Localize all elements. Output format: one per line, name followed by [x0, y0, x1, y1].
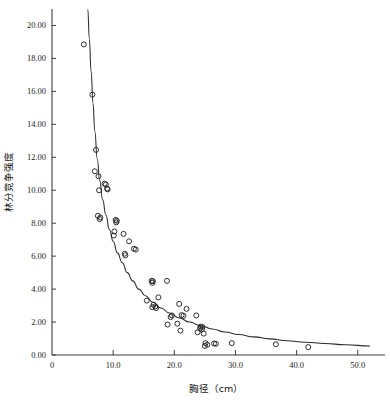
x-tick-label: 0 — [50, 360, 54, 370]
data-point — [164, 278, 169, 283]
data-point — [175, 321, 180, 326]
y-tick-label: 6.00 — [31, 251, 46, 261]
scatter-plot: 0.002.004.006.008.0010.0012.0014.0016.00… — [0, 0, 390, 411]
x-tick-label: 40.0 — [289, 360, 304, 370]
y-axis-title: 林分竞争强度 — [3, 152, 14, 212]
x-axis-ticks: 010.020.030.040.050.0 — [50, 350, 365, 370]
y-tick-label: 10.00 — [27, 185, 46, 195]
y-tick-label: 0.00 — [31, 350, 46, 360]
x-tick-label: 30.0 — [228, 360, 243, 370]
data-point — [306, 345, 311, 350]
data-point — [156, 295, 161, 300]
y-tick-label: 2.00 — [31, 317, 46, 327]
data-point — [81, 42, 86, 47]
fit-curve — [88, 9, 370, 346]
x-tick-label: 10.0 — [106, 360, 121, 370]
data-point — [229, 341, 234, 346]
data-point — [273, 342, 278, 347]
x-axis-title: 胸径（cm） — [189, 383, 243, 394]
x-tick-label: 20.0 — [167, 360, 182, 370]
data-point — [178, 328, 183, 333]
data-point — [184, 306, 189, 311]
y-tick-label: 8.00 — [31, 218, 46, 228]
data-point — [121, 231, 126, 236]
y-tick-label: 20.00 — [27, 20, 46, 30]
data-point — [201, 331, 206, 336]
x-tick-label: 50.0 — [350, 360, 365, 370]
data-point — [194, 313, 199, 318]
chart-figure: 0.002.004.006.008.0010.0012.0014.0016.00… — [0, 0, 390, 411]
y-tick-label: 18.00 — [27, 53, 46, 63]
data-point — [127, 239, 132, 244]
y-tick-label: 12.00 — [27, 152, 46, 162]
data-point — [177, 301, 182, 306]
y-tick-label: 4.00 — [31, 284, 46, 294]
data-point — [195, 330, 200, 335]
y-tick-label: 16.00 — [27, 86, 46, 96]
data-point — [144, 298, 149, 303]
data-point — [92, 169, 97, 174]
y-tick-label: 14.00 — [27, 119, 46, 129]
data-points — [81, 42, 310, 350]
data-point — [165, 322, 170, 327]
